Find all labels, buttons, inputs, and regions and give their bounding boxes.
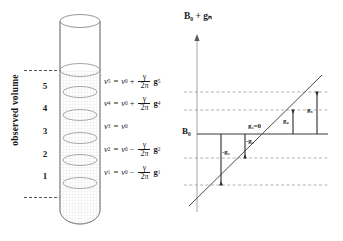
chart-bar-g4-arrow (291, 110, 295, 115)
chart-bar-g1-arrow (219, 181, 223, 186)
slice-number-5: 5 (38, 81, 52, 91)
equation-v5-operator: + (130, 76, 135, 86)
equation-v1-v0-sub: 0 (125, 169, 128, 175)
equation-v5-equals: = (113, 76, 118, 86)
equation-v1-lhs-sub: 1 (108, 169, 111, 175)
equation-v4: v4 = v0 + γ 2π g4 (104, 96, 160, 110)
equation-v5-denominator: 2π (138, 81, 150, 90)
slice-number-2: 2 (38, 149, 52, 159)
equation-v1-numerator: γ (141, 164, 149, 172)
equation-v4-fraction: γ 2π (138, 95, 150, 112)
chart-y-axis-arrow (194, 34, 199, 41)
equation-v5-lhs-sub: 5 (108, 78, 111, 84)
chart-gradient-line (189, 75, 322, 206)
equation-v3-lhs-sub: 3 (108, 123, 111, 129)
chart-label-g4: g₄ (283, 117, 289, 125)
figure-root: observed volume 5 4 3 2 1 (0, 0, 343, 241)
chart-label-neg-g2: -g₂ (246, 137, 254, 145)
equation-v2-operator: − (130, 144, 135, 154)
equation-v3-v0-sub: 0 (125, 123, 128, 129)
equation-v1-g-sub: 1 (158, 169, 161, 175)
equation-v4-operator: + (130, 98, 135, 108)
slice-number-3: 3 (38, 126, 52, 136)
equation-v4-numerator: γ (141, 95, 149, 103)
right-panel-gradient-chart: B₀ + gₙ B₀ -g₁ -g (176, 0, 343, 241)
equation-v4-equals: = (113, 98, 118, 108)
equation-v4-g-sub: 4 (158, 100, 161, 106)
equation-v5-fraction: γ 2π (138, 73, 150, 90)
equation-v2-numerator: γ (141, 141, 149, 149)
slice-number-1: 1 (38, 171, 52, 181)
equation-v1-equals: = (113, 167, 118, 177)
equation-v1-operator: − (130, 167, 135, 177)
equation-v5-g-sub: 5 (158, 78, 161, 84)
chart-label-g5: g₅ (307, 106, 313, 114)
equation-v2-lhs-sub: 2 (108, 146, 111, 152)
chart-axis-title: B₀ + gₙ (184, 10, 212, 21)
chart-bar-g2-arrow (243, 154, 247, 159)
observed-volume-axis-label: observed volume (10, 65, 20, 155)
equation-v4-v0-sub: 0 (125, 100, 128, 106)
equation-v5: v5 = v0 + γ 2π g5 (104, 74, 160, 88)
equation-v3-equals: = (113, 121, 118, 131)
equation-v2: v2 = v0 − γ 2π g2 (104, 142, 160, 156)
equation-v2-v0-sub: 0 (125, 146, 128, 152)
equation-v2-equals: = (113, 144, 118, 154)
equation-v5-numerator: γ (141, 73, 149, 81)
sample-tube-cylinder (57, 14, 103, 228)
equation-v2-denominator: 2π (138, 149, 150, 158)
equation-v2-g-sub: 2 (158, 146, 161, 152)
slice-number-4: 4 (38, 103, 52, 113)
equation-v5-v0-sub: 0 (125, 78, 128, 84)
equation-v1-fraction: γ 2π (138, 164, 150, 181)
left-panel-sample-tube: observed volume 5 4 3 2 1 (0, 0, 175, 241)
chart-canvas (176, 0, 343, 241)
equation-v4-denominator: 2π (138, 103, 150, 112)
equation-v4-lhs-sub: 4 (108, 100, 111, 106)
chart-label-g3-zero: g₃=0 (248, 122, 261, 130)
equation-v1: v1 = v0 − γ 2π g1 (104, 165, 160, 179)
chart-baseline-label: B₀ (182, 126, 191, 136)
chart-label-neg-g1: -g₁ (222, 148, 230, 156)
chart-bar-g5-arrow (315, 92, 319, 97)
equation-v3: v3 = v0 (104, 119, 128, 133)
equation-v1-denominator: 2π (138, 172, 150, 181)
equation-v2-fraction: γ 2π (138, 141, 150, 158)
